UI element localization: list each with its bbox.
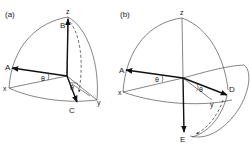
panel-b-label-E: E [180,135,185,144]
panel-a-vector-B [67,19,68,76]
panel-a-theta-arc [48,73,49,80]
panel-a-label-B: B [60,21,65,30]
panel-b-label-phi: θ [199,86,203,93]
panel-b-equator-back [183,65,244,78]
panel-a-label-A: A [5,63,11,72]
panel-b-arc-zy [182,18,228,90]
panel-a-label-C: C [69,106,75,115]
panel-a-x-axis [9,76,67,88]
panel-b-vector-E [183,78,184,132]
panel-a-label-x: x [3,85,7,92]
panel-a-label: (a) [5,10,15,19]
panel-b-x-axis [123,78,183,92]
panel-b-label-A: A [119,66,125,75]
panel-b: (b) z A x D y E θ θ [118,9,249,144]
panel-b-label-theta: θ [155,76,159,83]
panel-a: (a) z B A x y C θ θ [3,8,101,115]
panel-b-label-y: y [210,101,214,109]
panel-a-label-y: y [97,99,101,107]
panel-a-dashed-arc [70,22,81,92]
panel-b-label-D: D [229,85,235,94]
panel-a-vector-A [12,68,67,76]
panel-b-phi-arc [196,84,198,91]
panel-b-arc-zx [123,18,182,92]
panel-b-theta-arc [162,75,163,82]
panel-a-label-z: z [66,8,70,15]
panel-b-label: (b) [120,10,130,19]
panel-b-y-axis [183,78,212,100]
panel-b-label-z: z [180,9,184,16]
panel-b-arc-xy [123,92,232,104]
panel-a-label-phi: θ [70,84,74,91]
panel-b-vector-D [183,78,227,95]
panel-a-arc-xy [9,88,97,101]
diagram-canvas: (a) z B A x y C θ θ (b) [0,0,251,146]
panel-b-label-x: x [118,89,122,96]
panel-b-z-axis [182,18,183,78]
panel-b-bulge-outer [190,65,249,137]
panel-a-label-theta: θ [41,75,45,82]
